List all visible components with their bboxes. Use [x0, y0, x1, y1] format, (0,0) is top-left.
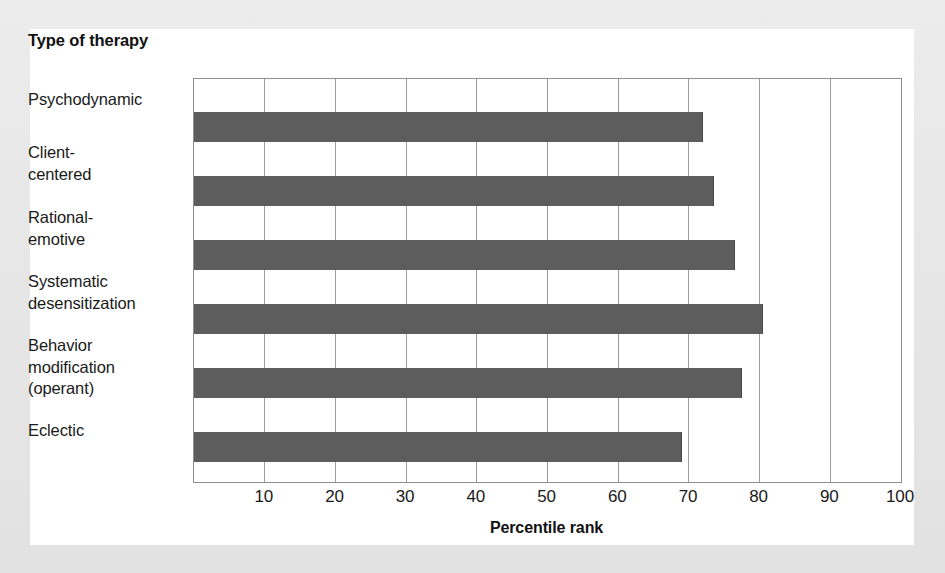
plot-area — [193, 78, 902, 483]
x-tick-label-50: 50 — [537, 487, 556, 507]
x-tick-label-60: 60 — [608, 487, 627, 507]
x-tick-label-20: 20 — [325, 487, 344, 507]
x-axis-title: Percentile rank — [193, 519, 900, 537]
x-tick-label-10: 10 — [254, 487, 273, 507]
x-tick-label-40: 40 — [467, 487, 486, 507]
figure-background: Type of therapy Psychodynamic Client- ce… — [0, 0, 945, 573]
category-axis-labels: Type of therapy Psychodynamic Client- ce… — [28, 30, 188, 482]
gridline-80 — [759, 79, 760, 482]
bar-rational-emotive — [194, 240, 735, 270]
x-tick-label-100: 100 — [886, 487, 914, 507]
bar-behavior-modification-operant — [194, 368, 742, 398]
x-tick-label-30: 30 — [396, 487, 415, 507]
bar-psychodynamic — [194, 112, 703, 142]
category-label-psychodynamic: Psychodynamic — [28, 89, 142, 111]
category-label-systematic-desensitization: Systematic desensitization — [28, 271, 136, 314]
x-tick-label-80: 80 — [749, 487, 768, 507]
bar-systematic-desensitization — [194, 304, 763, 334]
x-tick-label-70: 70 — [679, 487, 698, 507]
category-label-behavior-modification: Behavior modification (operant) — [28, 335, 115, 400]
bar-client-centered — [194, 176, 714, 206]
category-label-rational-emotive: Rational- emotive — [28, 207, 93, 250]
x-tick-label-90: 90 — [820, 487, 839, 507]
category-axis-title: Type of therapy — [28, 30, 148, 51]
category-label-client-centered: Client- centered — [28, 142, 91, 185]
category-label-eclectic: Eclectic — [28, 420, 84, 442]
bar-eclectic — [194, 432, 682, 462]
gridline-90 — [830, 79, 831, 482]
